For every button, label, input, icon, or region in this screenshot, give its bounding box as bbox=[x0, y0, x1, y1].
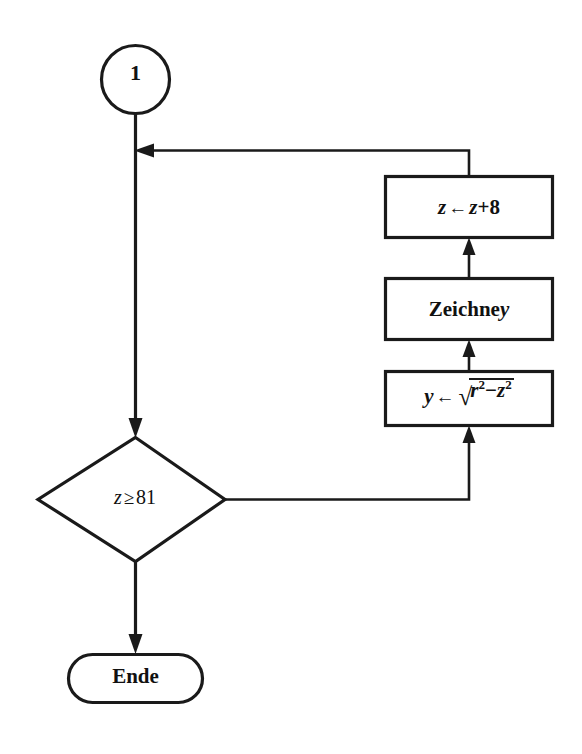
radicand-base-a: r bbox=[470, 378, 478, 402]
arrow-head-into-increment bbox=[463, 238, 476, 256]
flowchart-vector-layer bbox=[0, 0, 582, 754]
arrow-head-into-draw bbox=[463, 340, 476, 358]
increment-operator: + bbox=[477, 195, 489, 219]
arrow-head-into-decision bbox=[129, 418, 143, 438]
arrow-head-into-terminator bbox=[129, 634, 143, 654]
radicand-minus: − bbox=[485, 378, 497, 402]
connector-label: 1 bbox=[101, 62, 170, 84]
decision-label: z≥81 bbox=[45, 487, 225, 507]
arrow-head-into-sqrt bbox=[463, 426, 476, 444]
increment-assign-arrow: ← bbox=[446, 197, 469, 218]
radicand-exp-b: 2 bbox=[505, 377, 512, 392]
process-draw-label: Zeichney bbox=[385, 299, 553, 320]
edge-decision-to-sqrt bbox=[225, 438, 469, 500]
radicand-base-b: z bbox=[497, 378, 505, 402]
decision-value: 81 bbox=[136, 486, 156, 508]
radical-expression: √r2−z2 bbox=[457, 384, 514, 409]
edge-loop-back-to-trunk bbox=[148, 151, 469, 177]
sqrt-target: y bbox=[424, 384, 433, 408]
increment-operand-b: 8 bbox=[489, 195, 500, 219]
process-sqrt-label: y←√r2−z2 bbox=[385, 384, 553, 409]
flowchart-canvas: 1 z←z+8 Zeichney y←√r2−z2 z≥81 Ende bbox=[0, 0, 582, 754]
sqrt-assign-arrow: ← bbox=[434, 386, 457, 407]
radicand: r2−z2 bbox=[469, 378, 513, 401]
draw-verb: Zeichne bbox=[429, 297, 500, 321]
decision-variable: z bbox=[114, 486, 122, 508]
process-increment-label: z←z+8 bbox=[385, 197, 553, 218]
terminator-label: Ende bbox=[68, 666, 203, 687]
draw-variable: y bbox=[500, 297, 509, 321]
decision-comparator: ≥ bbox=[122, 487, 136, 508]
